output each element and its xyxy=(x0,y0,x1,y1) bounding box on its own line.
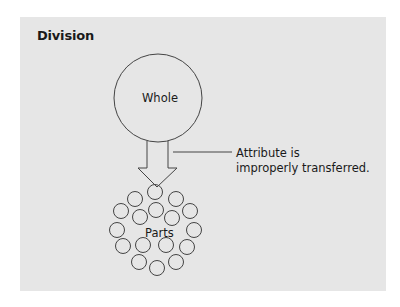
down-arrow xyxy=(138,141,177,187)
annotation-line-2: improperly transferred. xyxy=(236,161,370,176)
annotation-line-1: Attribute is xyxy=(236,146,370,161)
whole-label: Whole xyxy=(142,91,178,105)
annotation-text: Attribute is improperly transferred. xyxy=(236,146,370,176)
parts-label: Parts xyxy=(145,226,174,240)
